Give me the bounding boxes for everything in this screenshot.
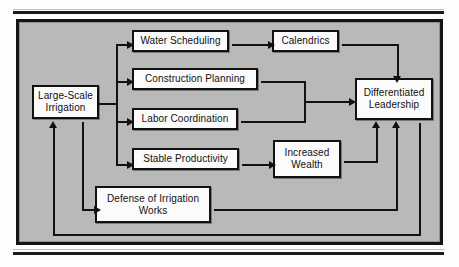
node-label-construction-planning: Construction Planning xyxy=(142,73,248,85)
node-construction-planning[interactable]: Construction Planning xyxy=(132,68,258,90)
node-stable-productivity[interactable]: Stable Productivity xyxy=(132,148,239,170)
node-label-large-scale-irrigation: Large-Scale Irrigation xyxy=(35,90,96,114)
arrowhead-construction-planning xyxy=(127,78,134,86)
edge-feedback-left-vertical xyxy=(53,126,55,236)
node-defense-of-irrigation-works[interactable]: Defense of Irrigation Works xyxy=(95,186,211,223)
node-label-labor-coordination: Labor Coordination xyxy=(139,113,232,125)
node-label-stable-productivity: Stable Productivity xyxy=(140,153,231,165)
edge-calendrics-to-leadership-horizontal xyxy=(342,44,399,46)
edge-construction-to-junction xyxy=(261,81,306,83)
arrowhead-increased-wealth xyxy=(269,161,276,169)
bottom-rule xyxy=(13,252,444,255)
bottom-rule-hairline xyxy=(13,249,444,250)
edge-feedback-bottom-horizontal xyxy=(53,234,421,236)
arrowhead-water-scheduling xyxy=(127,41,134,49)
node-differentiated-leadership[interactable]: Differentiated Leadership xyxy=(355,78,433,120)
arrowhead-leadership-top xyxy=(393,76,401,83)
arrowhead-calendrics xyxy=(268,41,275,49)
flowchart-figure: Large-Scale Irrigation Water Scheduling … xyxy=(0,0,459,267)
node-label-calendrics: Calendrics xyxy=(278,35,332,47)
edge-feedback-right-vertical xyxy=(419,123,421,236)
arrowhead-large-scale-irrigation xyxy=(49,121,57,128)
node-increased-wealth[interactable]: Increased Wealth xyxy=(273,140,341,178)
node-calendrics[interactable]: Calendrics xyxy=(272,30,339,52)
node-large-scale-irrigation[interactable]: Large-Scale Irrigation xyxy=(32,85,99,119)
node-label-water-scheduling: Water Scheduling xyxy=(137,35,223,47)
arrowhead-labor-coordination xyxy=(127,118,134,126)
diagram-panel: Large-Scale Irrigation Water Scheduling … xyxy=(16,19,443,245)
arrowhead-defense-of-irrigation xyxy=(94,206,101,214)
arrowhead-stable-productivity xyxy=(127,161,134,169)
top-rule xyxy=(13,11,444,14)
arrowhead-leadership-left xyxy=(349,98,356,106)
arrowhead-leadership-bottom-right xyxy=(392,121,400,128)
edge-fanout-spine xyxy=(116,44,118,166)
edge-wealth-to-leadership-horizontal xyxy=(344,161,378,163)
node-label-increased-wealth: Increased Wealth xyxy=(282,147,333,171)
edge-defense-to-leadership-horizontal xyxy=(214,209,398,211)
edge-irrigation-to-defense-vertical xyxy=(82,122,84,211)
edge-water-to-calendrics xyxy=(232,44,271,46)
edge-junction-to-leadership xyxy=(304,101,351,103)
edge-defense-to-leadership-vertical xyxy=(396,125,398,211)
node-label-differentiated-leadership: Differentiated Leadership xyxy=(361,87,428,111)
top-rule-hairline xyxy=(13,9,444,10)
node-label-defense-of-irrigation-works: Defense of Irrigation Works xyxy=(104,193,202,217)
node-water-scheduling[interactable]: Water Scheduling xyxy=(132,30,229,52)
edge-wealth-to-leadership-vertical xyxy=(376,125,378,163)
edge-labor-to-junction xyxy=(241,121,306,123)
arrowhead-leadership-bottom-left xyxy=(372,121,380,128)
node-labor-coordination[interactable]: Labor Coordination xyxy=(132,108,238,130)
